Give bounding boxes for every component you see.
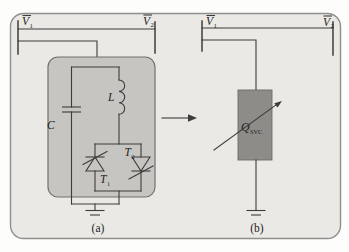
inductor-label: L [107, 91, 114, 103]
v1-sub-a: 1 [30, 22, 34, 30]
thyristor2-sub: 2 [132, 153, 135, 160]
v2-sub-a: 2 [151, 21, 155, 29]
caption-b: (b) [250, 222, 264, 235]
svc-label-sub: SVC [250, 128, 262, 135]
caption-a: (a) [92, 222, 105, 235]
figure-canvas: V 1 V 2 C L [0, 0, 349, 252]
v1-sub-b: 1 [214, 22, 218, 30]
v2-sub-b: 2 [331, 22, 335, 30]
capacitor-label: C [47, 119, 55, 131]
thyristor1-sub: 1 [107, 180, 110, 187]
figure-stage: V 1 V 2 C L [0, 0, 349, 252]
